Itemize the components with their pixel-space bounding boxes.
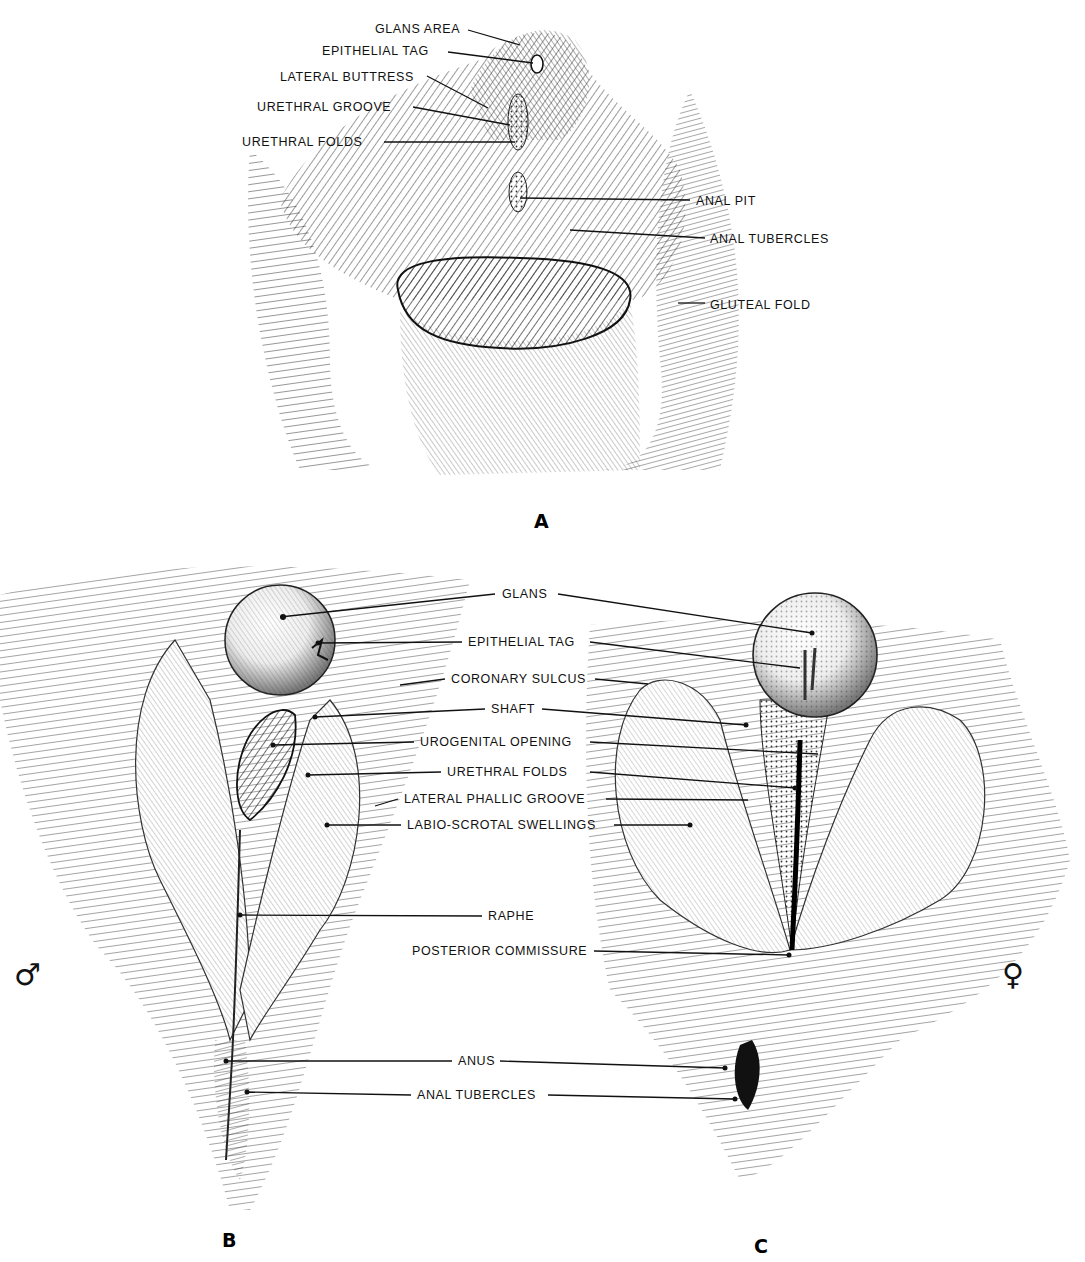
- label-anal-pit: ANAL PIT: [696, 194, 756, 208]
- label-epithelial-tag: EPITHELIAL TAG: [468, 635, 575, 649]
- label-posterior-commissure: POSTERIOR COMMISSURE: [412, 944, 587, 958]
- label-lateral-phallic-groove: LATERAL PHALLIC GROOVE: [404, 792, 585, 806]
- label-lateral-buttress: LATERAL BUTTRESS: [280, 70, 414, 84]
- label-urethral-folds: URETHRAL FOLDS: [242, 135, 362, 149]
- label-labio-scrotal-swellings: LABIO-SCROTAL SWELLINGS: [407, 818, 596, 832]
- label-urethral-folds: URETHRAL FOLDS: [447, 765, 567, 779]
- male-symbol-icon: ♂: [14, 957, 41, 992]
- label-glans-area: GLANS AREA: [375, 22, 460, 36]
- label-coronary-sulcus: CORONARY SULCUS: [451, 672, 586, 686]
- label-glans: GLANS: [502, 587, 547, 601]
- panel-a-illustration: [248, 30, 739, 475]
- label-shaft: SHAFT: [491, 702, 535, 716]
- label-anal-tubercles: ANAL TUBERCLES: [417, 1088, 536, 1102]
- label-anus: ANUS: [458, 1054, 495, 1068]
- label-urogenital-opening: UROGENITAL OPENING: [420, 735, 572, 749]
- leader-line: [468, 30, 520, 45]
- label-urethral-groove: URETHRAL GROOVE: [257, 100, 391, 114]
- label-raphe: RAPHE: [488, 909, 534, 923]
- panel-c-illustration: [586, 593, 1070, 1180]
- label-epithelial-tag: EPITHELIAL TAG: [322, 44, 429, 58]
- panel-letter-b: B: [222, 1229, 236, 1251]
- label-anal-tubercles: ANAL TUBERCLES: [710, 232, 829, 246]
- embryo-external-genitalia-figure: GLANS AREAEPITHELIAL TAGLATERAL BUTTRESS…: [0, 0, 1085, 1262]
- panel-letter-c: C: [754, 1235, 768, 1257]
- label-gluteal-fold: GLUTEAL FOLD: [710, 298, 811, 312]
- female-symbol-icon: ♀: [1002, 957, 1024, 992]
- panel-b-illustration: [0, 566, 470, 1210]
- panel-letter-a: A: [534, 510, 549, 532]
